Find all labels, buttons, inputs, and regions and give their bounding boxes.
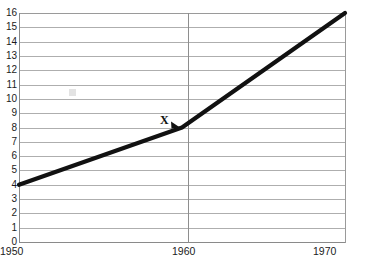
series-plot-area xyxy=(0,0,370,263)
annotation-label-x: X xyxy=(160,114,169,126)
data-series-line xyxy=(19,13,345,185)
line-chart: 012345678910111213141516 X 1950 1960 197… xyxy=(0,0,370,263)
x-axis-tick-label-1950: 1950 xyxy=(0,246,23,257)
x-axis-tick-label-1970: 1970 xyxy=(313,246,336,257)
x-axis-tick-label-1960: 1960 xyxy=(172,246,195,257)
annotation-arrow-icon xyxy=(171,122,180,129)
